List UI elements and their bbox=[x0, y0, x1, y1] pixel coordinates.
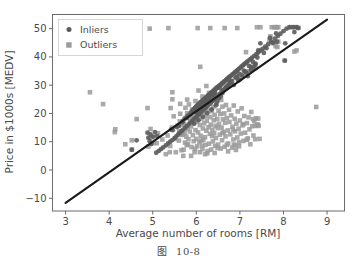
outlier-point bbox=[186, 137, 191, 142]
inlier-point bbox=[209, 107, 214, 112]
outlier-point bbox=[160, 137, 165, 142]
outlier-point bbox=[256, 116, 261, 121]
y-tick-label: 40 bbox=[34, 51, 47, 62]
inlier-point bbox=[292, 30, 297, 35]
outlier-point bbox=[178, 102, 183, 107]
outlier-point bbox=[208, 122, 213, 127]
inlier-point bbox=[282, 58, 287, 63]
outlier-point bbox=[228, 132, 233, 137]
inlier-point bbox=[134, 138, 139, 143]
outlier-point bbox=[195, 26, 200, 31]
legend-marker-inliers bbox=[67, 27, 72, 32]
outlier-point bbox=[200, 143, 205, 148]
outlier-point bbox=[134, 117, 139, 122]
outlier-point bbox=[215, 117, 220, 122]
inlier-point bbox=[256, 48, 261, 53]
outlier-point bbox=[186, 142, 191, 147]
y-tick-label: 30 bbox=[34, 80, 47, 91]
outlier-point bbox=[235, 135, 240, 140]
outlier-point bbox=[235, 26, 240, 31]
inlier-point bbox=[255, 55, 260, 60]
outlier-point bbox=[239, 106, 244, 111]
inlier-point bbox=[264, 46, 269, 51]
outlier-point bbox=[178, 111, 183, 116]
outlier-point bbox=[294, 48, 299, 53]
x-tick-label: 9 bbox=[324, 216, 330, 227]
legend[interactable]: Inliers Outliers bbox=[59, 20, 143, 56]
scatter-plot: 3456789 −1001020304050 Average number of… bbox=[0, 0, 357, 272]
outlier-point bbox=[236, 126, 241, 131]
outlier-point bbox=[130, 138, 135, 143]
legend-marker-outliers bbox=[66, 42, 71, 47]
outlier-point bbox=[212, 151, 217, 156]
outlier-point bbox=[198, 133, 203, 138]
outlier-point bbox=[243, 130, 248, 135]
outlier-point bbox=[222, 26, 227, 31]
outlier-point bbox=[210, 134, 215, 139]
outlier-point bbox=[212, 113, 217, 118]
inlier-point bbox=[200, 114, 205, 119]
inlier-point bbox=[192, 121, 197, 126]
outlier-point bbox=[199, 138, 204, 143]
outlier-point bbox=[235, 109, 240, 114]
outlier-point bbox=[314, 105, 319, 110]
caption-label: 图 bbox=[157, 246, 168, 257]
outlier-point bbox=[208, 26, 213, 31]
outlier-point bbox=[248, 142, 253, 147]
outlier-point bbox=[174, 150, 179, 155]
outlier-point bbox=[237, 140, 242, 145]
legend-label-inliers: Inliers bbox=[80, 24, 109, 35]
y-tick-label: 0 bbox=[40, 165, 46, 176]
outlier-point bbox=[227, 107, 232, 112]
outlier-point bbox=[245, 137, 250, 142]
outlier-point bbox=[218, 112, 223, 117]
outlier-point bbox=[214, 136, 219, 141]
outlier-point bbox=[257, 137, 262, 142]
outlier-point bbox=[231, 137, 236, 142]
outlier-point bbox=[187, 102, 192, 107]
outlier-point bbox=[154, 141, 159, 146]
outlier-point bbox=[242, 114, 247, 119]
x-axis-label: Average number of rooms [RM] bbox=[116, 227, 281, 239]
outlier-point bbox=[224, 103, 229, 108]
inlier-point bbox=[213, 90, 218, 95]
outlier-point bbox=[147, 26, 152, 31]
outlier-point bbox=[220, 138, 225, 143]
outlier-point bbox=[232, 117, 237, 122]
outlier-point bbox=[238, 131, 243, 136]
outlier-point bbox=[164, 152, 169, 157]
outlier-point bbox=[276, 25, 281, 30]
x-tick-label: 5 bbox=[150, 216, 156, 227]
y-tick-label: 20 bbox=[34, 108, 47, 119]
inlier-point bbox=[233, 75, 238, 80]
outlier-point bbox=[275, 45, 280, 50]
outlier-point bbox=[170, 97, 175, 102]
inlier-point bbox=[253, 62, 258, 67]
inlier-point bbox=[274, 31, 279, 36]
y-tick-label: 50 bbox=[34, 23, 47, 34]
outlier-point bbox=[215, 146, 220, 151]
outlier-point bbox=[113, 127, 118, 132]
outlier-point bbox=[145, 106, 150, 111]
outlier-point bbox=[166, 26, 171, 31]
outlier-point bbox=[226, 149, 231, 154]
x-tick-label: 4 bbox=[106, 216, 112, 227]
inlier-point bbox=[258, 41, 263, 46]
outlier-point bbox=[101, 102, 106, 107]
outlier-point bbox=[196, 88, 201, 93]
y-tick-label: 10 bbox=[34, 136, 47, 147]
inlier-point bbox=[129, 147, 134, 152]
outlier-point bbox=[244, 50, 249, 55]
outlier-point bbox=[167, 150, 172, 155]
outlier-point bbox=[225, 116, 230, 121]
outlier-point bbox=[222, 111, 227, 116]
outlier-point bbox=[88, 90, 93, 95]
outlier-point bbox=[251, 117, 256, 122]
outlier-point bbox=[203, 135, 208, 140]
outlier-point bbox=[232, 142, 237, 147]
outlier-point bbox=[249, 110, 254, 115]
outlier-point bbox=[204, 84, 209, 89]
outlier-point bbox=[246, 115, 251, 120]
inlier-point bbox=[154, 150, 159, 155]
outlier-point bbox=[227, 120, 232, 125]
